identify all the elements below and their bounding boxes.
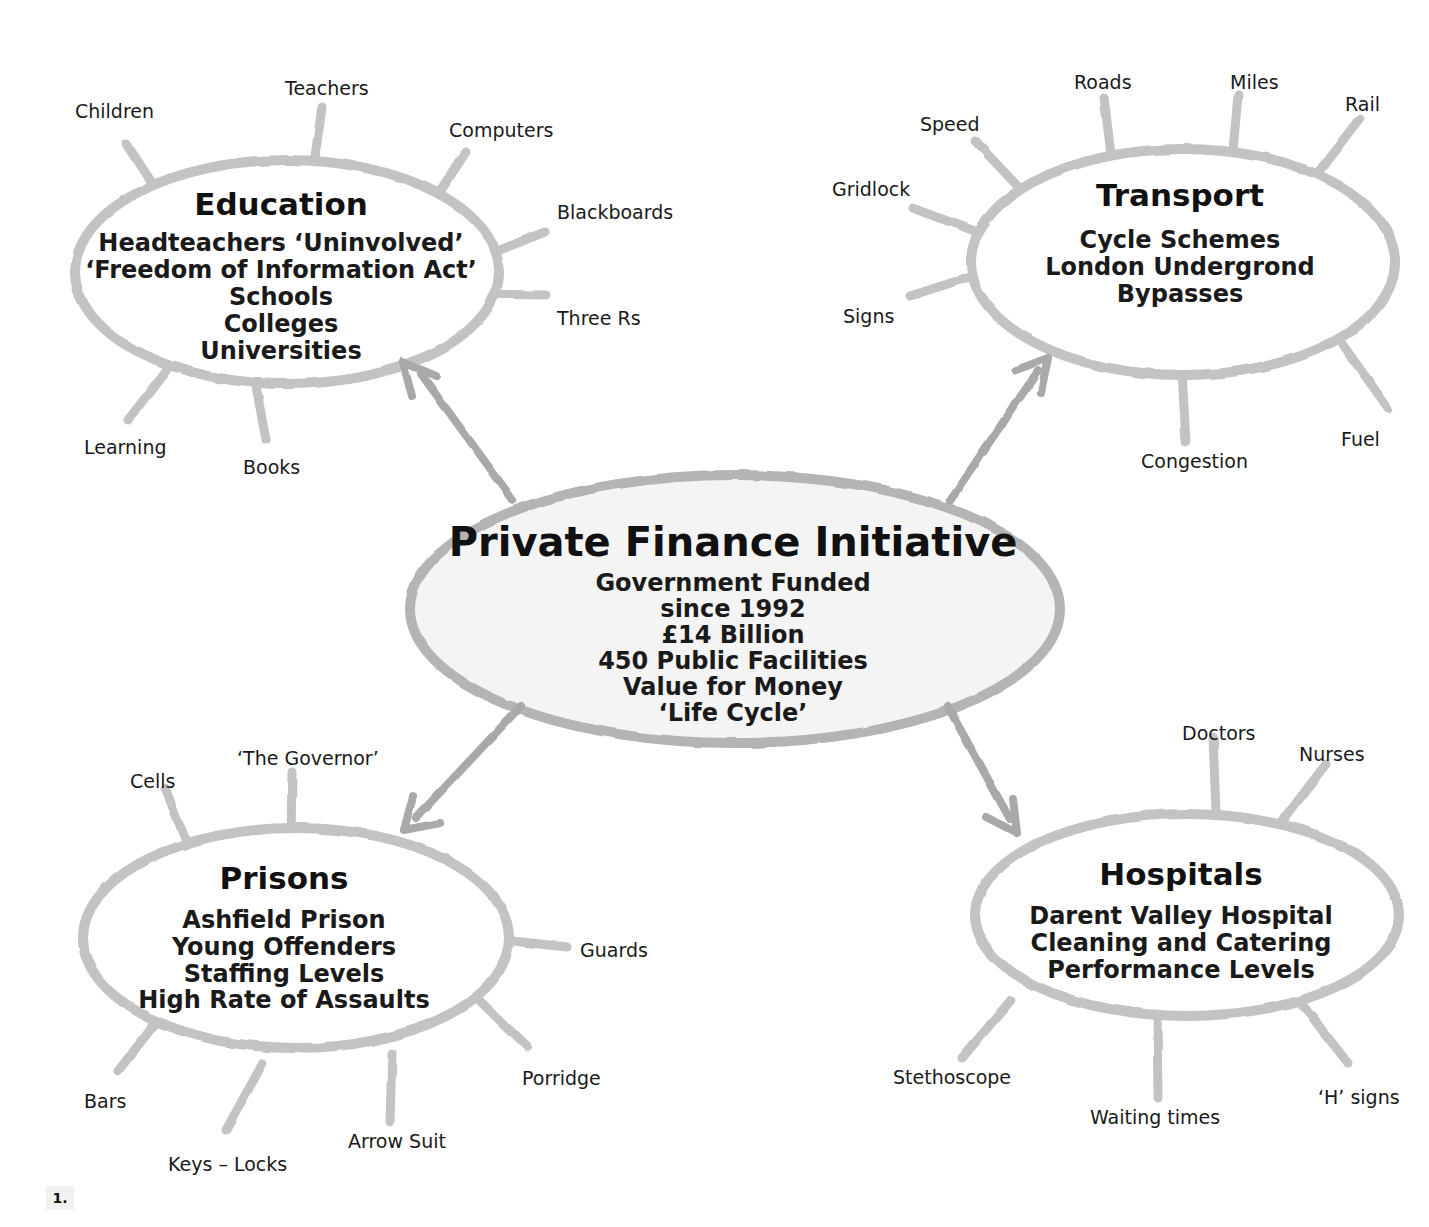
prisons-line-3: High Rate of Assaults bbox=[138, 986, 429, 1014]
spoke-label-the-governor: ‘The Governor’ bbox=[237, 747, 379, 769]
spoke-line-arrow-suit bbox=[390, 1053, 392, 1122]
center-line-5: ‘Life Cycle’ bbox=[659, 699, 808, 727]
spoke-line-h-signs bbox=[1301, 1003, 1348, 1063]
center-line-0: Government Funded bbox=[595, 569, 870, 597]
spoke-label-waiting-times: Waiting times bbox=[1090, 1106, 1220, 1128]
spoke-label-children: Children bbox=[75, 100, 154, 122]
spoke-label-blackboards: Blackboards bbox=[557, 201, 673, 223]
spoke-line-nurses bbox=[1278, 764, 1326, 827]
connector-center-to-education bbox=[403, 362, 513, 500]
connector-line-hospitals bbox=[948, 707, 1010, 819]
spoke-label-three-rs: Three Rs bbox=[556, 307, 641, 329]
education-title: Education bbox=[194, 186, 368, 222]
spoke-label-books: Books bbox=[243, 456, 300, 478]
page-marker: 1. bbox=[46, 1186, 74, 1210]
spoke-label-speed: Speed bbox=[920, 113, 980, 135]
hospitals-line-2: Performance Levels bbox=[1047, 956, 1315, 984]
spoke-label-doctors: Doctors bbox=[1182, 722, 1256, 744]
transport-title: Transport bbox=[1096, 177, 1264, 213]
education-line-3: Colleges bbox=[224, 310, 339, 338]
spoke-label-porridge: Porridge bbox=[522, 1067, 601, 1089]
center-title: Private Finance Initiative bbox=[449, 519, 1018, 565]
spoke-line-waiting-times bbox=[1157, 1014, 1158, 1098]
spoke-label-learning: Learning bbox=[84, 436, 167, 458]
connector-center-to-transport bbox=[950, 358, 1048, 500]
spoke-line-fuel bbox=[1343, 345, 1388, 408]
prisons-title: Prisons bbox=[220, 860, 349, 896]
spoke-label-computers: Computers bbox=[449, 119, 553, 141]
transport-line-0: Cycle Schemes bbox=[1080, 226, 1281, 254]
connector-center-to-hospitals bbox=[948, 707, 1017, 833]
education-line-0: Headteachers ‘Uninvolved’ bbox=[98, 229, 463, 257]
spoke-line-congestion bbox=[1182, 372, 1186, 442]
spoke-label-signs: Signs bbox=[843, 305, 894, 327]
connector-line-prisons bbox=[416, 706, 521, 818]
connector-center-to-prisons bbox=[404, 706, 521, 830]
spoke-line-bars bbox=[118, 1020, 158, 1071]
node-hospitals[interactable]: Hospitals Darent Valley Hospital Cleanin… bbox=[975, 814, 1399, 1016]
prisons-line-2: Staffing Levels bbox=[184, 960, 384, 988]
spoke-label-miles: Miles bbox=[1230, 71, 1279, 93]
node-prisons[interactable]: Prisons Ashfield Prison Young Offenders … bbox=[83, 828, 509, 1048]
transport-line-1: London Undergrond bbox=[1045, 253, 1315, 281]
spoke-label-arrow-suit: Arrow Suit bbox=[348, 1130, 446, 1152]
spoke-label-nurses: Nurses bbox=[1299, 743, 1365, 765]
spoke-label-h-signs: ‘H’ signs bbox=[1318, 1086, 1400, 1108]
spoke-label-cells: Cells bbox=[130, 770, 175, 792]
spoke-label-congestion: Congestion bbox=[1141, 450, 1248, 472]
spoke-label-stethoscope: Stethoscope bbox=[893, 1066, 1011, 1088]
hospitals-title: Hospitals bbox=[1099, 856, 1262, 892]
spoke-label-keys-locks: Keys – Locks bbox=[168, 1153, 287, 1175]
spoke-label-guards: Guards bbox=[580, 939, 648, 961]
connector-line-transport bbox=[950, 371, 1038, 500]
spoke-line-stethoscope bbox=[962, 1000, 1011, 1058]
spoke-label-fuel: Fuel bbox=[1341, 428, 1380, 450]
education-line-4: Universities bbox=[200, 337, 361, 365]
transport-line-2: Bypasses bbox=[1117, 280, 1243, 308]
center-line-4: Value for Money bbox=[623, 673, 843, 701]
center-line-1: since 1992 bbox=[660, 595, 805, 623]
prisons-line-1: Young Offenders bbox=[171, 933, 396, 961]
hospitals-line-1: Cleaning and Catering bbox=[1031, 929, 1332, 957]
hospitals-line-0: Darent Valley Hospital bbox=[1029, 902, 1333, 930]
spoke-label-bars: Bars bbox=[84, 1090, 126, 1112]
mind-map-canvas: Education Headteachers ‘Uninvolved’ ‘Fre… bbox=[0, 0, 1429, 1227]
education-line-1: ‘Freedom of Information Act’ bbox=[85, 256, 477, 284]
spoke-line-learning bbox=[128, 363, 172, 420]
prisons-line-0: Ashfield Prison bbox=[182, 906, 385, 934]
center-line-2: £14 Billion bbox=[661, 621, 804, 649]
spoke-line-rail bbox=[1316, 118, 1360, 175]
spoke-line-gridlock bbox=[912, 208, 983, 234]
spoke-label-rail: Rail bbox=[1345, 93, 1380, 115]
center-line-3: 450 Public Facilities bbox=[598, 647, 868, 675]
spoke-label-teachers: Teachers bbox=[284, 77, 369, 99]
node-center-pfi[interactable]: Private Finance Initiative Government Fu… bbox=[410, 475, 1060, 743]
spoke-line-porridge bbox=[479, 1000, 527, 1047]
education-line-2: Schools bbox=[229, 283, 333, 311]
connector-line-education bbox=[421, 374, 513, 500]
spoke-line-keys-locks bbox=[226, 1063, 263, 1130]
node-transport[interactable]: Transport Cycle Schemes London Undergron… bbox=[971, 149, 1395, 375]
spoke-label-roads: Roads bbox=[1074, 71, 1132, 93]
spoke-label-gridlock: Gridlock bbox=[832, 178, 910, 200]
spoke-line-doctors bbox=[1213, 737, 1216, 812]
node-education[interactable]: Education Headteachers ‘Uninvolved’ ‘Fre… bbox=[75, 160, 499, 384]
